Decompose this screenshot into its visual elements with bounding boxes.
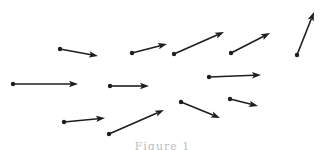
arrow-shaft <box>231 36 264 53</box>
arrow-origin-dot <box>62 120 66 124</box>
arrow-2 <box>11 81 78 87</box>
arrow-origin-dot <box>179 100 183 104</box>
arrow-origin-dot <box>172 52 176 56</box>
figure-caption: Figure 1 <box>0 141 325 150</box>
arrow-11 <box>179 100 220 118</box>
arrow-10 <box>107 110 164 136</box>
arrow-shaft <box>297 19 311 55</box>
arrow-shaft <box>209 75 254 77</box>
arrow-origin-dot <box>229 51 233 55</box>
arrow-shaft <box>64 119 98 122</box>
arrow-shaft <box>60 49 91 55</box>
arrow-origin-dot <box>108 84 112 88</box>
arrow-shaft <box>230 99 251 104</box>
arrow-origin-dot <box>295 53 299 57</box>
arrow-4 <box>172 32 224 56</box>
arrow-origin-dot <box>107 132 111 136</box>
arrow-1 <box>58 47 98 58</box>
arrow-origin-dot <box>228 97 232 101</box>
arrow-9 <box>62 116 105 125</box>
arrow-6 <box>295 12 314 57</box>
arrow-7 <box>108 83 149 89</box>
arrow-shaft <box>132 46 160 53</box>
arrow-origin-dot <box>130 51 134 55</box>
arrow-shaft <box>174 35 218 54</box>
vector-diagram <box>0 0 325 150</box>
arrow-8 <box>207 72 261 79</box>
arrow-origin-dot <box>58 47 62 51</box>
arrow-3 <box>130 43 167 55</box>
arrow-shaft <box>109 113 158 134</box>
arrow-origin-dot <box>207 75 211 79</box>
arrow-shaft <box>181 102 214 115</box>
arrow-12 <box>228 97 258 107</box>
arrow-origin-dot <box>11 82 15 86</box>
arrow-group <box>11 12 314 136</box>
arrow-5 <box>229 33 270 55</box>
